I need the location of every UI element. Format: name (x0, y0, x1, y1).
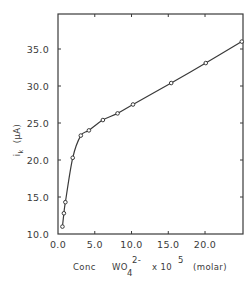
y-tick-label: 25.0 (27, 118, 49, 129)
y-label-subscript: k (17, 149, 25, 153)
data-point (204, 61, 208, 65)
data-point (62, 211, 66, 215)
x-label-unit: (molar) (193, 262, 227, 272)
y-axis-ticks: 10.015.020.025.030.035.0 (27, 44, 243, 240)
data-point (61, 225, 65, 229)
data-point (64, 200, 68, 204)
y-tick-label: 30.0 (27, 81, 49, 92)
x-label-subscript: 4 (127, 268, 133, 278)
fitted-curve (62, 42, 241, 227)
x-label-prefix: Conc (73, 262, 96, 272)
x-tick-label: 5.0 (87, 239, 103, 250)
x-tick-label: 15.0 (157, 239, 179, 250)
plot-frame (58, 14, 243, 234)
x-label-multiplier: x 10 (152, 262, 172, 272)
chart: 10.015.020.025.030.035.0 0.05.010.015.02… (0, 0, 252, 291)
x-axis-ticks: 0.05.010.015.020.0 (50, 14, 216, 250)
data-point (169, 81, 173, 85)
x-tick-label: 20.0 (194, 239, 216, 250)
data-point (131, 103, 135, 107)
x-tick-label: 0.0 (50, 239, 66, 250)
y-tick-label: 35.0 (27, 44, 49, 55)
y-tick-label: 20.0 (27, 155, 49, 166)
x-label-exponent: 5 (178, 255, 184, 265)
x-label-species: WO (112, 262, 128, 272)
x-label-superscript: 2- (132, 255, 141, 265)
y-axis-label: ik(μA) (12, 124, 25, 156)
y-label-unit: (μA) (12, 124, 22, 143)
x-axis-label: Conc WO 4 2- x 10 5 (molar) (73, 255, 227, 278)
data-point (116, 112, 120, 116)
svg-text:ik(μA): ik(μA) (12, 124, 25, 156)
data-points (61, 40, 244, 229)
x-tick-label: 10.0 (120, 239, 142, 250)
y-tick-label: 10.0 (27, 229, 49, 240)
data-point (87, 129, 91, 133)
data-point (79, 134, 83, 138)
data-point (240, 40, 244, 44)
data-point (101, 118, 105, 122)
data-point (71, 156, 75, 160)
y-tick-label: 15.0 (27, 192, 49, 203)
